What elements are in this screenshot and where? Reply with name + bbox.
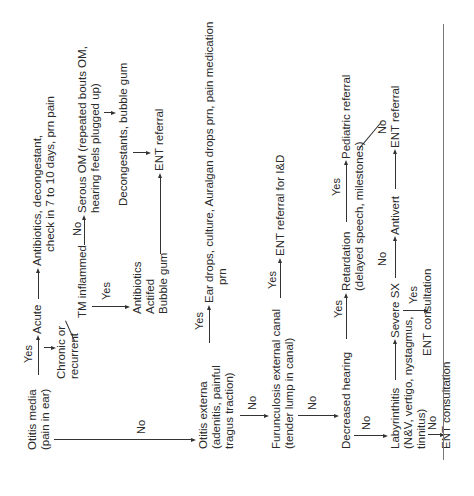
- node-ent-referral-1: ENT referral: [153, 109, 166, 171]
- edge-label-no: No: [135, 420, 147, 434]
- arrow-head: [82, 215, 86, 220]
- node-text: Otitis externa: [197, 365, 210, 449]
- node-severe-sx: Severe SX: [389, 283, 402, 338]
- page-rule: [443, 24, 444, 460]
- arrow-head: [393, 339, 397, 344]
- arrow-line: [298, 415, 335, 416]
- node-ent-consultation-2: ENT consultation: [440, 362, 453, 449]
- arrow-head: [207, 305, 211, 310]
- node-text: (N&V, vertigo, nystagmus,: [402, 316, 415, 449]
- node-text: (pain in ear): [39, 389, 52, 450]
- node-ent-consultation-1: ENT consultation: [421, 269, 434, 356]
- arrow-head: [278, 258, 282, 263]
- node-decongestants: Decongestants, bubble gum: [117, 63, 130, 206]
- node-furunculosis: Furunculosis external canal (tender lump…: [270, 309, 296, 449]
- arrow-line: [280, 262, 281, 298]
- edge-label-no: No: [246, 396, 258, 410]
- node-text: tragus traction): [223, 365, 236, 449]
- arrow-head: [36, 335, 40, 340]
- arrow-line: [359, 122, 382, 149]
- arrow-head: [158, 173, 162, 178]
- arrow-line: [346, 297, 347, 339]
- edge-label-no: No: [376, 252, 388, 266]
- edge-label-no: No: [306, 396, 318, 410]
- arrow-head: [111, 112, 116, 116]
- node-text: Furunculosis external canal: [270, 309, 283, 449]
- arrow-head: [146, 152, 151, 156]
- arrow-head: [125, 306, 130, 310]
- edge-label-yes: Yes: [407, 286, 419, 304]
- edge-label-yes: Yes: [266, 271, 278, 289]
- arrow-head: [393, 149, 397, 154]
- node-text: check in 7 to 10 days, prn pain: [44, 96, 57, 266]
- node-otitis-externa: Otitis externa (adenitis, painful tragus…: [197, 365, 236, 449]
- arrow-line: [395, 240, 396, 278]
- node-text: (tender lump in canal): [283, 309, 296, 449]
- edge-label-no: No: [71, 222, 83, 236]
- edge-label-yes: Yes: [330, 178, 342, 196]
- node-tm-inflamed: TM inflammed: [76, 245, 89, 318]
- arrow-head: [334, 415, 339, 419]
- node-antivert: Antivert: [389, 196, 402, 235]
- node-text: Serous OM (repeated bouts OM,: [76, 46, 89, 213]
- edge-label-yes: Yes: [332, 300, 344, 318]
- node-pediatric-referral: Pediatric referral: [340, 75, 353, 159]
- arrow-line: [133, 152, 147, 153]
- edge-label-yes: Yes: [22, 345, 34, 363]
- arrow-line: [346, 164, 347, 222]
- arrow-head: [264, 415, 269, 419]
- node-text: Antibiotics, decongestant,: [31, 96, 44, 266]
- node-tm-yes-treatment: Antibiotics Actifed Bubble gum: [131, 253, 170, 314]
- arrow-head: [344, 293, 348, 298]
- node-text: hearing feels plugged up): [89, 46, 102, 213]
- node-serous-om: Serous OM (repeated bouts OM, hearing fe…: [76, 46, 102, 213]
- edge-label-yes: Yes: [193, 312, 205, 330]
- node-text: Antibiotics: [131, 253, 144, 314]
- node-acute: Acute: [31, 305, 44, 334]
- node-text: Bubble gum: [157, 253, 170, 314]
- node-text: Ear drops, culture, Auralgan drops prn, …: [203, 22, 216, 303]
- node-text: prn: [216, 22, 229, 303]
- arrow-head: [344, 160, 348, 165]
- arrow-head: [36, 268, 40, 273]
- arrow-line: [92, 306, 126, 307]
- arrow-line: [354, 435, 384, 436]
- node-ent-referral-2: ENT referral: [389, 86, 402, 148]
- node-externa-treatment: Ear drops, culture, Auralgan drops prn, …: [203, 22, 229, 303]
- node-text: Chronic or: [55, 326, 68, 379]
- flowchart-ear-complaints: Otitis media (pain in ear) Yes Acute Ant…: [0, 0, 474, 496]
- arrow-line: [395, 153, 396, 189]
- node-text: (adenitis, painful: [210, 365, 223, 449]
- arrow-line: [209, 309, 210, 343]
- node-decreased-hearing: Decreased hearing: [340, 352, 353, 449]
- node-ent-referral-id: ENT referral for I&D: [274, 155, 287, 256]
- node-text: (delayed speech, milestones): [353, 141, 366, 291]
- edge-label-yes: Yes: [100, 282, 112, 300]
- arrow-line: [160, 177, 161, 254]
- arrow-line: [54, 439, 192, 440]
- node-acute-treatment: Antibiotics, decongestant, check in 7 to…: [31, 96, 57, 266]
- arrow-head: [383, 435, 388, 439]
- arrow-line: [38, 272, 39, 299]
- arrow-line: [240, 415, 265, 416]
- node-text: Otitis media: [26, 389, 39, 450]
- arrow-line: [84, 219, 85, 245]
- arrow-line: [395, 343, 396, 380]
- edge-label-no: No: [426, 416, 438, 430]
- node-otitis-media: Otitis media (pain in ear): [26, 389, 52, 450]
- arrow-line: [38, 339, 39, 375]
- arrow-head: [393, 236, 397, 241]
- node-text: Actifed: [144, 253, 157, 314]
- arrow-head: [191, 439, 196, 443]
- edge-label-no: No: [360, 416, 372, 430]
- node-chronic-recurrent: Chronic or recurrent: [55, 326, 81, 379]
